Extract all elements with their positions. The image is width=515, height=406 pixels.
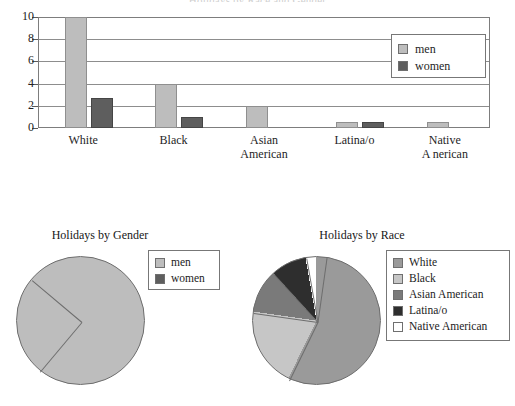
x-axis-label: AsianAmerican	[219, 133, 309, 161]
legend-swatch-icon	[393, 306, 403, 316]
x-axis-label: Black	[128, 133, 218, 147]
y-tick-label: 2	[0, 99, 34, 111]
legend-label: men	[171, 257, 191, 269]
legend-item-men: men	[155, 255, 213, 271]
y-tick-label: 8	[0, 32, 34, 44]
pie-slice-divider	[32, 280, 82, 322]
legend-item-black: Black	[393, 271, 503, 287]
legend-label: Asian American	[409, 289, 483, 301]
race-pie-legend: White Black Asian American Latina/o Nati…	[386, 250, 510, 341]
x-axis-label-line: Asian	[219, 133, 309, 147]
legend-item-asian-american: Asian American	[393, 287, 503, 303]
legend-item-latina-o: Latina/o	[393, 303, 503, 319]
bar-men	[65, 17, 87, 128]
x-axis-label-line: A nerican	[400, 147, 490, 161]
bar-chart-title: Holidays by Race and Gender	[0, 0, 515, 2]
legend-swatch-icon	[398, 61, 408, 71]
legend-swatch-icon	[155, 258, 165, 268]
bar-men	[155, 84, 177, 128]
race-pie-title: Holidays by Race	[272, 228, 452, 242]
x-axis-label: Latina/o	[309, 133, 399, 147]
x-axis-label-line: American	[219, 147, 309, 161]
legend-label: women	[415, 60, 450, 72]
legend-label: White	[409, 257, 437, 269]
legend-swatch-icon	[393, 258, 403, 268]
legend-swatch-icon	[155, 274, 165, 284]
x-axis-label-line: Latina/o	[309, 133, 399, 147]
legend-swatch-icon	[393, 274, 403, 284]
legend-swatch-icon	[393, 290, 403, 300]
bar-women	[91, 98, 113, 128]
pie-slice-divider	[317, 258, 327, 322]
bar-chart-legend: men women	[391, 34, 486, 78]
legend-item-white: White	[393, 255, 503, 271]
legend-item-women: women	[155, 271, 213, 287]
x-axis-label-line: Native	[400, 133, 490, 147]
gender-pie-chart	[16, 256, 145, 385]
x-axis-label: White	[38, 133, 128, 147]
gender-pie-legend: men women	[148, 250, 220, 290]
pie-slice-divider	[40, 322, 82, 372]
legend-label: women	[171, 273, 205, 285]
bar-men	[427, 122, 449, 128]
bar-men	[336, 122, 358, 128]
bar-chart: Holidays by Race and Gender 0246810 Whit…	[0, 0, 515, 180]
legend-item-women: women	[398, 57, 479, 74]
bar-women	[362, 122, 384, 128]
gridline	[38, 84, 490, 85]
pie-slice-divider	[254, 313, 318, 323]
legend-label: Native American	[409, 321, 487, 333]
pie-slice-divider	[289, 322, 318, 380]
y-tick-label: 4	[0, 77, 34, 89]
gender-pie-title: Holidays by Gender	[20, 228, 180, 242]
y-tick-label: 10	[0, 10, 34, 22]
legend-label: Latina/o	[409, 305, 447, 317]
legend-label: men	[415, 43, 436, 55]
legend-label: Black	[409, 273, 436, 285]
x-axis-label: NativeA nerican	[400, 133, 490, 161]
y-tick-label: 0	[0, 121, 34, 133]
bar-men	[246, 106, 268, 128]
y-tick-label: 6	[0, 54, 34, 66]
x-axis-label-line: White	[38, 133, 128, 147]
gridline	[38, 17, 490, 18]
legend-item-native-american: Native American	[393, 319, 503, 335]
legend-swatch-icon	[398, 44, 408, 54]
x-axis-label-line: Black	[128, 133, 218, 147]
legend-swatch-icon	[393, 322, 403, 332]
legend-item-men: men	[398, 40, 479, 57]
race-pie-chart	[252, 256, 381, 385]
bar-women	[181, 117, 203, 128]
